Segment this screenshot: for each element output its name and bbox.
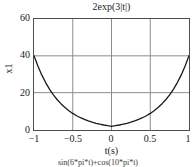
plot-area[interactable]	[33, 18, 190, 131]
x-axis-tick-labels: −1 −0.5 0 0.5 1	[33, 133, 190, 145]
x-tick-label-0: 0	[93, 133, 129, 144]
figure-panel: 2exp(3|t|) x1 60 40 20 0 −1 −0.5 0 0.5 1…	[0, 0, 196, 167]
x-tick-label-0-5: 0.5	[132, 133, 168, 144]
x-tick-label-neg1: −1	[16, 133, 52, 144]
x-tick-label-neg0-5: −0.5	[55, 133, 91, 144]
chart-title: 2exp(3|t|)	[33, 1, 190, 13]
y-tick-label-40: 40	[4, 50, 30, 60]
gridlines	[34, 19, 189, 130]
x-axis-label: t(s)	[33, 145, 190, 156]
y-tick-label-20: 20	[4, 88, 30, 98]
x-tick-label-1: 1	[170, 133, 196, 144]
next-figure-caption: sin(6*pi*t)+cos(10*pi*t)	[0, 158, 196, 167]
y-axis-tick-labels: 60 40 20 0	[2, 18, 30, 131]
plot-canvas	[34, 19, 189, 130]
y-tick-label-60: 60	[4, 13, 30, 23]
